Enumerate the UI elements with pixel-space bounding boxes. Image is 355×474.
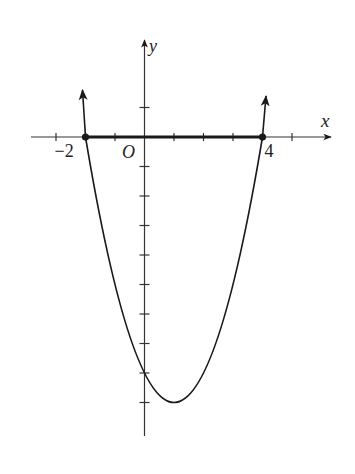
origin-label: O: [122, 142, 135, 162]
left-branch-arrow: [83, 90, 86, 137]
root-point: [259, 133, 266, 140]
x-tick-label: 4: [265, 141, 274, 161]
root-point: [82, 133, 89, 140]
right-branch-arrow: [263, 96, 267, 137]
x-axis-label: x: [320, 110, 330, 131]
y-axis-label: y: [147, 36, 157, 56]
parabola-chart: x y O −24: [0, 0, 355, 474]
parabola-curve: [86, 137, 263, 403]
x-tick-label: −2: [55, 141, 74, 161]
